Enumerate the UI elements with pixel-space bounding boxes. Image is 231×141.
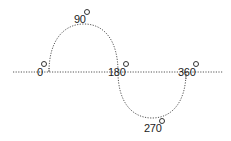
degree-symbol-90 [84,9,90,15]
label-0-degrees: 0 [37,67,43,78]
degree-symbol-360 [193,61,199,67]
degree-symbol-180 [123,61,129,67]
upper-arc-0-to-180 [49,24,118,72]
label-90-degrees: 90 [74,14,86,25]
lower-arc-180-to-360 [118,72,186,118]
degree-symbol-270 [159,118,165,124]
degree-symbol-0 [41,61,47,67]
label-360-degrees: 360 [178,67,195,78]
label-270-degrees: 270 [144,123,161,134]
label-180-degrees: 180 [108,67,125,78]
